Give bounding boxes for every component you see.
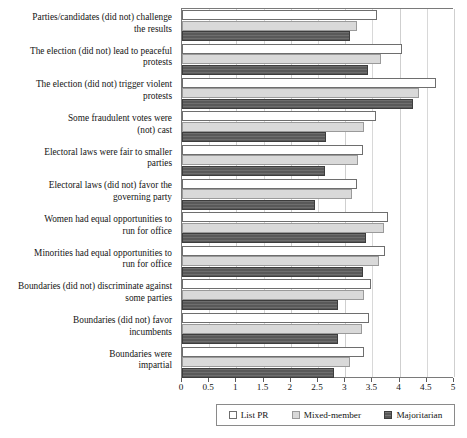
category-label: Electoral laws (did not) favor thegovern… (0, 180, 176, 203)
x-tick-label: 3.5 (366, 382, 377, 392)
category-label-line: Boundaries (did not) discriminate agains… (0, 281, 172, 293)
legend-swatch-icon (384, 411, 392, 419)
bar-majoritarian (182, 132, 326, 142)
category-label: Minorities had equal opportunities torun… (0, 248, 176, 271)
category-label-line: Some fraudulent votes were (0, 113, 172, 125)
category-label: The election (did not) lead to peacefulp… (0, 46, 176, 69)
bar-mixed-member (182, 357, 350, 367)
bar-group (182, 44, 453, 75)
category-label-line: The election (did not) trigger violent (0, 79, 172, 91)
category-label-line: impartial (0, 360, 172, 372)
x-axis: 00.511.522.533.544.55 (181, 378, 453, 396)
bar-majoritarian (182, 267, 363, 277)
x-tick-label: 2.5 (311, 382, 322, 392)
bar-mixed-member (182, 256, 379, 266)
bar-mixed-member (182, 88, 419, 98)
bar-mixed-member (182, 189, 352, 199)
bar-majoritarian (182, 233, 366, 243)
x-tick-label: 4 (396, 382, 401, 392)
category-label-line: Boundaries were (0, 349, 172, 361)
bar-mixed-member (182, 290, 364, 300)
bar-majoritarian (182, 200, 315, 210)
bar-mixed-member (182, 21, 357, 31)
bar-groups (182, 9, 453, 377)
category-label-line: Minorities had equal opportunities to (0, 248, 172, 260)
bar-group (182, 145, 453, 176)
bar-majoritarian (182, 300, 338, 310)
category-label-line: the results (0, 24, 172, 36)
category-label-line: governing party (0, 192, 172, 204)
category-label: Parties/candidates (did not) challengeth… (0, 12, 176, 35)
category-label-line: Parties/candidates (did not) challenge (0, 12, 172, 24)
category-label-line: (not) cast (0, 125, 172, 137)
grouped-bar-chart: Parties/candidates (did not) challengeth… (0, 0, 467, 438)
gridline-5 (454, 9, 455, 377)
bar-group (182, 10, 453, 41)
legend-label: Majoritarian (396, 410, 442, 420)
chart-legend: List PRMixed-memberMajoritarian (216, 404, 455, 426)
x-tick-label: 1.5 (257, 382, 268, 392)
category-label-line: protests (0, 57, 172, 69)
bar-mixed-member (182, 155, 358, 165)
bar-mixed-member (182, 223, 384, 233)
category-label: Boundaries (did not) favorincumbents (0, 315, 176, 338)
category-label-line: The election (did not) lead to peaceful (0, 46, 172, 58)
bar-majoritarian (182, 334, 338, 344)
bar-group (182, 179, 453, 210)
x-tick-label: 3 (342, 382, 347, 392)
bar-majoritarian (182, 166, 325, 176)
bar-list-pr (182, 78, 436, 88)
category-label-line: protests (0, 91, 172, 103)
bar-list-pr (182, 145, 363, 155)
category-label: Boundaries (did not) discriminate agains… (0, 281, 176, 304)
bar-list-pr (182, 313, 369, 323)
category-label-line: Women had equal opportunities to (0, 214, 172, 226)
bar-list-pr (182, 279, 371, 289)
category-axis-labels: Parties/candidates (did not) challengeth… (0, 8, 176, 378)
category-label: Electoral laws were fair to smallerparti… (0, 147, 176, 170)
legend-swatch-icon (229, 411, 237, 419)
bar-list-pr (182, 10, 377, 20)
legend-item-mixed-member[interactable]: Mixed-member (292, 410, 361, 420)
bar-list-pr (182, 212, 388, 222)
category-label: Women had equal opportunities torun for … (0, 214, 176, 237)
bar-list-pr (182, 246, 385, 256)
bar-majoritarian (182, 99, 413, 109)
category-label: The election (did not) trigger violentpr… (0, 79, 176, 102)
x-tick-label: 5 (451, 382, 456, 392)
bar-group (182, 246, 453, 277)
x-tick-label: 0 (179, 382, 184, 392)
category-label-line: incumbents (0, 327, 172, 339)
bar-list-pr (182, 44, 402, 54)
x-tick-label: 2 (288, 382, 293, 392)
x-tick-label: 0.5 (202, 382, 213, 392)
category-label-line: parties (0, 158, 172, 170)
bar-majoritarian (182, 31, 350, 41)
legend-label: Mixed-member (304, 410, 361, 420)
bar-group (182, 212, 453, 243)
bar-group (182, 279, 453, 310)
legend-item-majoritarian[interactable]: Majoritarian (384, 410, 442, 420)
bar-group (182, 78, 453, 109)
category-label-line: run for office (0, 259, 172, 271)
legend-swatch-icon (292, 411, 300, 419)
category-label-line: run for office (0, 226, 172, 238)
plot-area (181, 8, 453, 378)
bar-majoritarian (182, 65, 368, 75)
category-label: Boundaries wereimpartial (0, 349, 176, 372)
bar-group (182, 313, 453, 344)
legend-item-list-pr[interactable]: List PR (229, 410, 269, 420)
category-label: Some fraudulent votes were(not) cast (0, 113, 176, 136)
bar-group (182, 347, 453, 378)
bar-mixed-member (182, 324, 362, 334)
category-label-line: Boundaries (did not) favor (0, 315, 172, 327)
category-label-line: Electoral laws were fair to smaller (0, 147, 172, 159)
bar-mixed-member (182, 122, 364, 132)
category-label-line: some parties (0, 293, 172, 305)
x-tick-label: 1 (233, 382, 238, 392)
legend-label: List PR (241, 410, 269, 420)
bar-majoritarian (182, 368, 334, 378)
bar-group (182, 111, 453, 142)
x-tick-label: 4.5 (420, 382, 431, 392)
bar-mixed-member (182, 54, 381, 64)
